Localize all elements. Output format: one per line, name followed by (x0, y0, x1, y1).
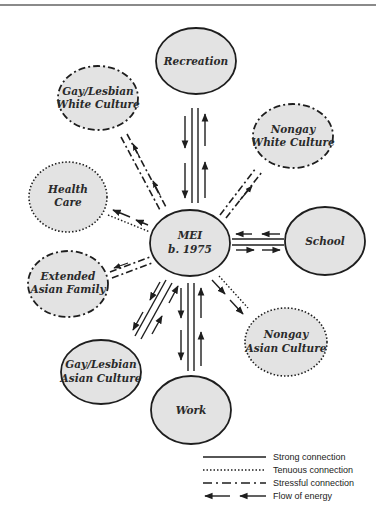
node-school: School (285, 207, 365, 275)
node-health-care: Health Care (29, 162, 107, 232)
node-label: Care (54, 196, 82, 208)
legend-label: Flow of energy (273, 491, 333, 501)
node-label: White Culture (251, 136, 335, 148)
connection-nongay-asian (212, 276, 248, 314)
connection-nongay-white (220, 168, 262, 218)
connection-gl-asian (133, 280, 178, 339)
node-label: Asian Family (29, 283, 106, 295)
node-label: Asian Culture (60, 372, 142, 384)
node-label: Nongay (263, 328, 309, 340)
node-label: b. 1975 (168, 243, 212, 255)
connection-health-care (108, 210, 150, 232)
node-label: Work (176, 404, 207, 416)
connection-work (181, 283, 201, 371)
node-label: Extended (40, 270, 96, 282)
node-label: Gay/Lesbian (65, 358, 136, 370)
legend-label: Tenuous connection (273, 465, 353, 475)
node-label: Nongay (270, 123, 316, 135)
legend (203, 457, 266, 496)
ecomap-diagram: Recreation Gay/Lesbian White Culture Non… (0, 0, 376, 523)
connection-ext-family (110, 257, 152, 278)
connection-school (232, 234, 284, 250)
node-recreation: Recreation (156, 28, 236, 94)
node-ext-family: Extended Asian Family (28, 251, 108, 317)
node-mei: MEI b. 1975 (150, 210, 230, 276)
node-label: School (305, 235, 345, 247)
node-gl-asian: Gay/Lesbian Asian Culture (60, 340, 142, 404)
node-label: Health (47, 183, 88, 195)
connection-gl-white (121, 134, 166, 210)
connection-recreation (185, 108, 205, 203)
legend-label: Strong connection (273, 452, 346, 462)
node-work: Work (151, 376, 231, 444)
legend-label: Stressful connection (273, 478, 354, 488)
node-nongay-white: Nongay White Culture (251, 104, 335, 168)
node-label: White Culture (56, 98, 140, 110)
node-gl-white: Gay/Lesbian White Culture (56, 66, 140, 130)
node-label: Asian Culture (245, 342, 327, 354)
node-label: Recreation (163, 55, 228, 67)
node-nongay-asian: Nongay Asian Culture (245, 308, 327, 376)
node-label: Gay/Lesbian (62, 85, 133, 97)
node-label: MEI (177, 229, 204, 241)
